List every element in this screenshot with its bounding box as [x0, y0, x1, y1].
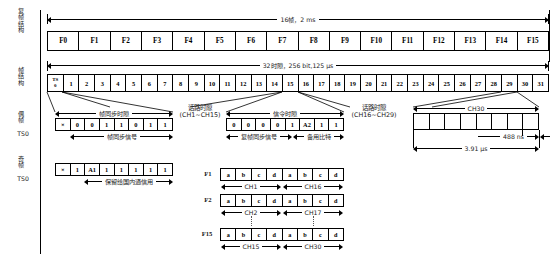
bit-cell: 1: [71, 164, 86, 175]
signalling-bit-cell: c: [252, 229, 267, 240]
timeslot-cell: 29: [502, 75, 518, 91]
timeslot-cell: 27: [471, 75, 487, 91]
multiframe-cell: F12: [424, 32, 455, 50]
signalling-bit-cell: d: [267, 169, 282, 180]
bit-cell: ×: [56, 119, 71, 130]
frame-structure-diagram: 复帧结构 帧结构 偶帧 TS0 奇帧 TS0 16帧，2 ms F0 F1 F2…: [0, 0, 554, 264]
timeslot-cell: 18: [330, 75, 346, 91]
timeslot-cell: 31: [533, 75, 548, 91]
signalling-bit-cell: d: [329, 169, 343, 180]
bit-cell: 1: [329, 119, 343, 130]
arrow-bar-left: [88, 181, 102, 182]
arrow-bar-right: [324, 186, 339, 187]
bit-cell: A2: [300, 119, 315, 130]
f1-left-channel-label: CH1: [242, 183, 261, 190]
bit-cell: 0: [271, 119, 286, 130]
arrow-bar-right: [324, 212, 339, 213]
timeslot-cell: 3: [95, 75, 111, 91]
bit-cell: 1: [115, 164, 130, 175]
arrow-bar-right: [280, 136, 288, 137]
speech-timeslot-right-line2: (CH16~CH29): [351, 111, 396, 119]
arrow-head-right: [545, 63, 549, 69]
ts16-caption-arrow: 信令时隙: [226, 110, 344, 117]
arrow-bar-right: [300, 113, 340, 114]
bit-cell: 1: [158, 119, 172, 130]
bit-cell: 1: [115, 119, 130, 130]
frame-timeslot-strip: TS 0 1 2 3 4 5 6 7 8 9 10 11 12 13 14 15…: [47, 74, 549, 92]
arrow-bar-left: [230, 136, 238, 137]
arrow-head-right: [169, 111, 173, 117]
arrow-head-right: [340, 111, 344, 117]
ts16-sub-caption-right: 备用比特: [304, 132, 334, 141]
timeslot-cell: 12: [236, 75, 252, 91]
signalling-bit-cell: b: [298, 229, 313, 240]
bit-cell: 1: [129, 164, 144, 175]
diagram-left-rule: [40, 10, 41, 254]
timeslot-cell: 22: [392, 75, 408, 91]
arrow-head-right: [340, 134, 344, 140]
timeslot-cell: 30: [518, 75, 534, 91]
odd-ts0-sub-caption: 保留给国内通信用: [102, 177, 156, 186]
f15-left-channel-label: CH15: [240, 243, 263, 250]
ts16-sub-right-arrow: 备用比特: [293, 133, 344, 140]
timeslot-cell: 7: [158, 75, 174, 91]
timeslot-cell: 2: [79, 75, 95, 91]
ts16-sub-caption-left: 复帧同步信号: [238, 132, 280, 141]
speech-timeslot-left-label: 话路时隙 (CH1~CH15): [176, 105, 224, 119]
multiframe-cell: F7: [267, 32, 298, 50]
arrow-head-right: [169, 179, 173, 185]
f1-right-channel-label: CH16: [302, 183, 325, 190]
odd-ts0-sub-arrow: 保留给国内通信用: [84, 178, 173, 185]
signalling-bit-cell: c: [313, 169, 328, 180]
multiframe-cell: F11: [392, 32, 423, 50]
ts16-caption: 信令时隙: [270, 109, 300, 118]
speech-timeslot-left-line2: (CH1~CH15): [179, 111, 220, 119]
timeslot-cell: 13: [252, 75, 268, 91]
ch30-slot-duration-arrow: 3.91 μs: [413, 145, 539, 152]
diagram-right-rule: [549, 10, 550, 62]
arrow-head-right: [339, 210, 343, 216]
signalling-bit-cell: d: [329, 195, 343, 206]
arrow-bar-left: [230, 113, 270, 114]
arrow-head-right: [339, 244, 343, 250]
ch30-bit-cell: [414, 114, 430, 129]
bit-cell: 0: [227, 119, 242, 130]
row-label-odd-frame: 奇帧: [17, 156, 24, 169]
ch30-bit-marker-tick: [522, 130, 523, 136]
timeslot-cell: 26: [455, 75, 471, 91]
arrow-bar-left: [225, 186, 242, 187]
multiframe-cell: F1: [79, 32, 110, 50]
row-label-even-frame: 偶帧: [17, 111, 24, 124]
even-frame-ts0-bits: × 0 0 1 1 0 1 1: [55, 118, 173, 131]
signalling-row-frame-label: F1: [199, 170, 217, 177]
arrow-bar-right: [487, 108, 535, 109]
signalling-bit-cell: d: [267, 229, 282, 240]
timeslot-cell: 23: [408, 75, 424, 91]
even-ts0-sub-arrow: 帧同步信号: [70, 133, 173, 140]
arrow-bar-left: [225, 212, 242, 213]
signalling-bit-cell: b: [236, 195, 251, 206]
continuation-dots-left: [251, 216, 252, 226]
signalling-row-frame-label: F2: [199, 196, 217, 203]
ch30-bit-cell: [523, 114, 538, 129]
frame-dimension: 32时隙，256 bit,125 μs: [47, 62, 549, 69]
timeslot-cell: 17: [314, 75, 330, 91]
f2-left-channel-arrow: CH2: [221, 209, 281, 216]
arrow-bar-left: [287, 246, 302, 247]
f15-right-channel-label: CH30: [302, 243, 325, 250]
timeslot-cell: 14: [267, 75, 283, 91]
timeslot-cell: 1: [64, 75, 80, 91]
ch30-bit-cell: [430, 114, 446, 129]
timeslot-cell: 8: [173, 75, 189, 91]
bit-cell: 0: [129, 119, 144, 130]
ch30-bit-cell: [477, 114, 493, 129]
arrow-bar-right: [490, 148, 535, 149]
ch30-bit-cell: [492, 114, 508, 129]
arrow-bar-right: [132, 113, 169, 114]
timeslot-cell: 16: [299, 75, 315, 91]
timeslot-cell: 20: [361, 75, 377, 91]
signalling-bit-cell: d: [329, 229, 343, 240]
arrow-bar-right: [527, 136, 535, 137]
multiframe-cell: F10: [361, 32, 392, 50]
bit-cell: 0: [256, 119, 271, 130]
